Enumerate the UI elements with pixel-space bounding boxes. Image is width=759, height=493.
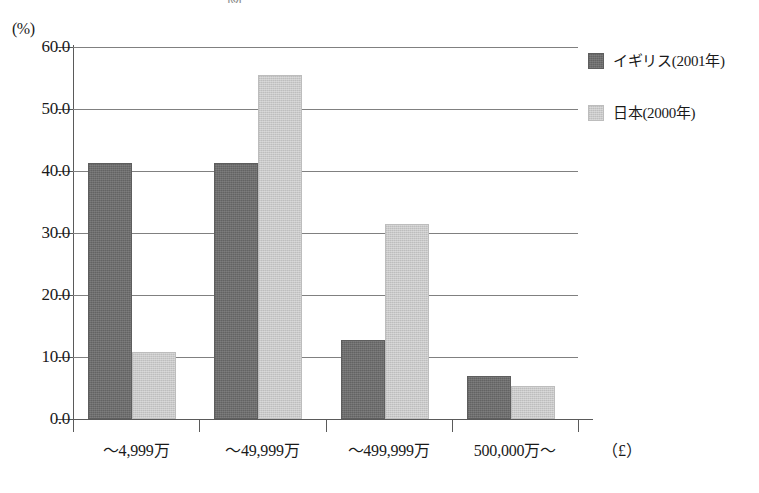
x-tick-mark xyxy=(578,419,579,432)
x-axis-line xyxy=(56,419,593,420)
y-tick-label: 10.0 xyxy=(10,348,70,365)
legend-swatch-icon xyxy=(588,53,604,69)
legend-swatch-icon xyxy=(588,105,604,121)
x-category-label: 500,000万～ xyxy=(452,441,578,461)
bar xyxy=(258,75,302,419)
bar xyxy=(341,340,385,419)
gridline xyxy=(73,109,578,110)
x-category-label: ～499,999万 xyxy=(326,441,452,461)
bar xyxy=(467,376,511,419)
y-tick-label: 50.0 xyxy=(10,100,70,117)
legend-entry: 日本(2000年) xyxy=(588,105,695,121)
y-tick-label: 30.0 xyxy=(10,224,70,241)
x-tick-mark xyxy=(326,419,327,432)
bar xyxy=(88,163,132,419)
bar-chart-figure: 図 (%) 0.010.020.030.040.050.060.0 ～4,999… xyxy=(0,0,759,493)
y-tick-label: 60.0 xyxy=(10,38,70,55)
chart-title: 図 xyxy=(0,0,470,3)
x-category-label: ～49,999万 xyxy=(199,441,325,461)
x-axis-unit-label: （£） xyxy=(602,441,642,461)
x-tick-mark xyxy=(452,419,453,432)
y-tick-label: 0.0 xyxy=(10,410,70,427)
y-axis-unit-label: (%) xyxy=(12,20,34,38)
y-tick-label: 20.0 xyxy=(10,286,70,303)
x-tick-mark xyxy=(73,419,74,432)
gridline xyxy=(73,47,578,48)
bar xyxy=(214,163,258,419)
legend-entry: イギリス(2001年) xyxy=(588,53,725,69)
bar xyxy=(132,352,176,419)
x-tick-mark xyxy=(199,419,200,432)
x-category-label: ～4,999万 xyxy=(73,441,199,461)
legend-label: 日本(2000年) xyxy=(613,105,695,121)
bar xyxy=(385,224,429,419)
gridline xyxy=(73,233,578,234)
y-tick-label: 40.0 xyxy=(10,162,70,179)
legend-label: イギリス(2001年) xyxy=(613,53,725,69)
gridline xyxy=(73,295,578,296)
bar xyxy=(511,386,555,419)
gridline xyxy=(73,171,578,172)
